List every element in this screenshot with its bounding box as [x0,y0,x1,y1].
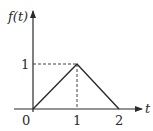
triangle-pulse-diagram: f(t) t 0 1 2 1 [0,0,153,131]
y-axis-label: f(t) [7,9,28,24]
y-tick-label-1: 1 [21,57,29,72]
x-axis-label: t [145,101,151,116]
x-tick-label-1: 1 [73,113,81,128]
x-tick-label-2: 2 [115,113,123,128]
origin-label: 0 [22,113,30,128]
function-curve [33,64,119,109]
